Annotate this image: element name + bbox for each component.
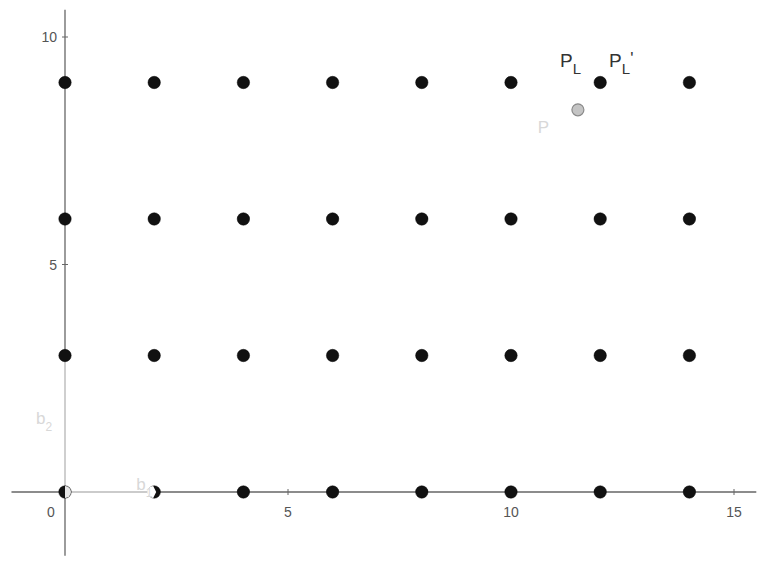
label-b2: b2 bbox=[36, 409, 52, 434]
lattice-point[interactable] bbox=[683, 76, 695, 88]
lattice-point[interactable] bbox=[416, 486, 428, 498]
lattice-point[interactable] bbox=[326, 213, 338, 225]
lattice-point[interactable] bbox=[594, 349, 606, 361]
lattice-point[interactable] bbox=[416, 76, 428, 88]
point-p[interactable] bbox=[572, 104, 584, 116]
x-tick-label: 0 bbox=[47, 504, 55, 520]
axes: 051015 510 bbox=[11, 10, 756, 556]
lattice-point[interactable] bbox=[594, 213, 606, 225]
lattice-point[interactable] bbox=[237, 486, 249, 498]
lattice-point[interactable] bbox=[237, 213, 249, 225]
point-labels: PLPL'Pb1b2 bbox=[36, 49, 633, 500]
lattice-point[interactable] bbox=[59, 76, 71, 88]
lattice-point[interactable] bbox=[505, 349, 517, 361]
lattice-point[interactable] bbox=[683, 213, 695, 225]
lattice-point[interactable] bbox=[148, 349, 160, 361]
label-p: P bbox=[538, 118, 549, 137]
lattice-point[interactable] bbox=[416, 213, 428, 225]
x-tick-label: 5 bbox=[284, 504, 292, 520]
lattice-point[interactable] bbox=[683, 349, 695, 361]
x-tick-label: 15 bbox=[726, 504, 742, 520]
lattice-point[interactable] bbox=[59, 213, 71, 225]
x-tick-label: 10 bbox=[503, 504, 519, 520]
y-axis-ticks: 510 bbox=[41, 29, 68, 273]
basis-vectors bbox=[65, 356, 154, 493]
lattice-point[interactable] bbox=[148, 213, 160, 225]
lattice-point[interactable] bbox=[594, 76, 606, 88]
lattice-points bbox=[59, 76, 696, 498]
lattice-point[interactable] bbox=[594, 486, 606, 498]
lattice-point[interactable] bbox=[237, 76, 249, 88]
y-tick-label: 10 bbox=[41, 29, 57, 45]
label-pL: PL bbox=[560, 50, 581, 77]
y-tick-label: 5 bbox=[49, 257, 57, 273]
lattice-point[interactable] bbox=[326, 486, 338, 498]
lattice-point[interactable] bbox=[505, 76, 517, 88]
lattice-point[interactable] bbox=[326, 76, 338, 88]
label-pL-prime: PL' bbox=[609, 49, 633, 77]
lattice-point[interactable] bbox=[326, 349, 338, 361]
lattice-point[interactable] bbox=[505, 213, 517, 225]
lattice-point[interactable] bbox=[237, 349, 249, 361]
lattice-point[interactable] bbox=[148, 76, 160, 88]
graphics-view[interactable]: 051015 510 PLPL'Pb1b2 bbox=[0, 0, 768, 575]
label-b1: b1 bbox=[136, 475, 152, 500]
lattice-point[interactable] bbox=[59, 349, 71, 361]
lattice-point[interactable] bbox=[683, 486, 695, 498]
lattice-point[interactable] bbox=[416, 349, 428, 361]
lattice-point[interactable] bbox=[505, 486, 517, 498]
